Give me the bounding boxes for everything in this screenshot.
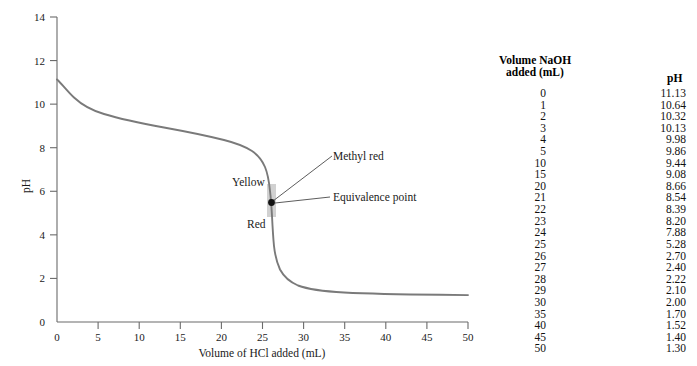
table-row: 159.08 [480, 169, 697, 181]
table-row: 011.13 [480, 88, 697, 100]
x-tick-10: 10 [134, 331, 146, 343]
cell-ph: 8.66 [480, 181, 686, 193]
table-row: 310.13 [480, 123, 697, 135]
titration-figure: 14 12 10 8 6 4 2 0 0 5 10 15 20 25 30 35… [0, 0, 697, 366]
cell-ph: 10.13 [480, 123, 686, 135]
cell-ph: 9.44 [480, 158, 686, 170]
red-region-label: Red [247, 218, 266, 230]
cell-ph: 1.52 [480, 320, 686, 332]
table-header-volume-line2: added (mL) [506, 66, 564, 78]
table-row: 451.40 [480, 332, 697, 344]
y-axis-ticks [50, 17, 57, 278]
methyl-red-leader [273, 156, 332, 201]
x-tick-50: 50 [463, 331, 475, 343]
cell-ph: 1.40 [480, 332, 686, 344]
table-row: 109.44 [480, 158, 697, 170]
yellow-region-label: Yellow [232, 176, 265, 188]
table-row: 292.10 [480, 285, 697, 297]
table-header-volume-line1: Volume NaOH [499, 54, 571, 66]
table-row: 401.52 [480, 320, 697, 332]
x-tick-25: 25 [257, 331, 269, 343]
table-row: 282.22 [480, 274, 697, 286]
y-tick-10: 10 [34, 98, 46, 110]
cell-ph: 7.88 [480, 227, 686, 239]
cell-ph: 2.10 [480, 285, 686, 297]
cell-ph: 11.13 [480, 88, 686, 100]
table-row: 49.98 [480, 134, 697, 146]
cell-ph: 2.70 [480, 251, 686, 263]
table-row: 302.00 [480, 297, 697, 309]
cell-ph: 9.08 [480, 169, 686, 181]
table-row: 208.66 [480, 181, 697, 193]
table-row: 255.28 [480, 239, 697, 251]
cell-ph: 2.22 [480, 274, 686, 286]
x-tick-35: 35 [339, 331, 351, 343]
y-axis-tick-labels: 14 12 10 8 6 4 2 0 [34, 11, 46, 328]
table-row: 262.70 [480, 251, 697, 263]
x-tick-20: 20 [216, 331, 228, 343]
cell-ph: 10.32 [480, 111, 686, 123]
y-tick-4: 4 [40, 229, 46, 241]
cell-ph: 5.28 [480, 239, 686, 251]
table-row: 247.88 [480, 227, 697, 239]
y-tick-6: 6 [40, 185, 46, 197]
methyl-red-label: Methyl red [333, 150, 384, 163]
x-tick-5: 5 [95, 331, 101, 343]
table-row: 351.70 [480, 309, 697, 321]
table-header-ph: pH [667, 72, 682, 84]
x-tick-40: 40 [380, 331, 392, 343]
y-tick-14: 14 [34, 11, 46, 23]
cell-ph: 8.39 [480, 204, 686, 216]
table-row: 272.40 [480, 262, 697, 274]
x-tick-15: 15 [175, 331, 187, 343]
x-axis-tick-labels: 0 5 10 15 20 25 30 35 40 45 50 [54, 331, 474, 343]
y-tick-8: 8 [40, 142, 46, 154]
x-axis-ticks [98, 322, 468, 329]
x-axis-title: Volume of HCl added (mL) [199, 347, 326, 360]
table-row: 238.20 [480, 216, 697, 228]
table-body: 011.13110.64210.32310.1349.9859.86109.44… [480, 88, 697, 355]
cell-ph: 2.00 [480, 297, 686, 309]
titration-data-table: Volume NaOH added (mL) pH 011.13110.6421… [480, 46, 697, 346]
y-tick-12: 12 [34, 55, 45, 67]
cell-ph: 9.86 [480, 146, 686, 158]
table-row: 218.54 [480, 192, 697, 204]
x-tick-30: 30 [298, 331, 310, 343]
cell-ph: 10.64 [480, 100, 686, 112]
cell-ph: 1.70 [480, 309, 686, 321]
cell-ph: 2.40 [480, 262, 686, 274]
x-tick-0: 0 [54, 331, 60, 343]
annotation-leaders [273, 156, 332, 203]
x-tick-45: 45 [421, 331, 433, 343]
y-axis-title: pH [20, 179, 33, 193]
cell-ph: 8.54 [480, 192, 686, 204]
plot-axes [50, 17, 468, 329]
table-row: 228.39 [480, 204, 697, 216]
y-tick-2: 2 [40, 272, 46, 284]
table-row: 501.30 [480, 343, 697, 355]
cell-ph: 8.20 [480, 216, 686, 228]
equivalence-point-leader [275, 197, 330, 203]
table-row: 59.86 [480, 146, 697, 158]
cell-ph: 9.98 [480, 134, 686, 146]
equivalence-point-marker [268, 199, 275, 206]
equivalence-point-label: Equivalence point [333, 191, 417, 204]
cell-ph: 1.30 [480, 343, 686, 355]
y-tick-0: 0 [40, 316, 46, 328]
